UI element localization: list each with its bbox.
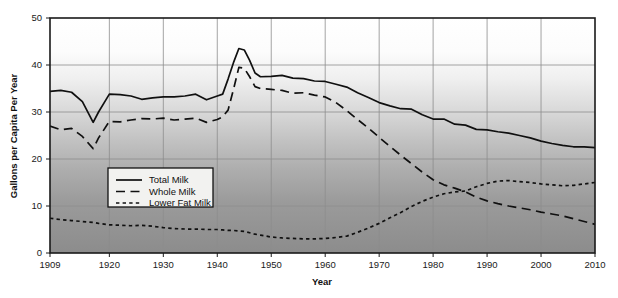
y-tick-label: 20 [31, 153, 42, 164]
chart-legend[interactable]: Total MilkWhole MilkLower Fat Milk [108, 168, 213, 208]
x-tick-label: 1980 [423, 259, 444, 270]
x-axis-title: Year [312, 276, 332, 287]
x-tick-label: 1990 [477, 259, 498, 270]
milk-consumption-chart: 1909192019301940195019601970198019902000… [0, 0, 618, 298]
y-tick-label: 0 [37, 247, 42, 258]
y-tick-label: 50 [31, 12, 42, 23]
x-tick-label: 1960 [315, 259, 336, 270]
x-tick-label: 1940 [207, 259, 228, 270]
plot-background [50, 18, 595, 253]
y-tick-label: 10 [31, 200, 42, 211]
legend-label-lower-fat-milk: Lower Fat Milk [149, 197, 211, 208]
y-tick-label: 30 [31, 106, 42, 117]
x-tick-label: 1930 [153, 259, 174, 270]
legend-label-whole-milk: Whole Milk [149, 186, 196, 197]
x-tick-label: 2010 [584, 259, 605, 270]
x-tick-label: 2000 [530, 259, 551, 270]
x-tick-label: 1920 [99, 259, 120, 270]
x-tick-label: 1909 [39, 259, 60, 270]
x-tick-label: 1970 [369, 259, 390, 270]
y-axis-title: Gallons per Capita Per Year [8, 73, 19, 198]
chart-canvas: 1909192019301940195019601970198019902000… [0, 0, 618, 298]
legend-label-total-milk: Total Milk [149, 174, 189, 185]
y-tick-label: 40 [31, 59, 42, 70]
x-tick-label: 1950 [261, 259, 282, 270]
